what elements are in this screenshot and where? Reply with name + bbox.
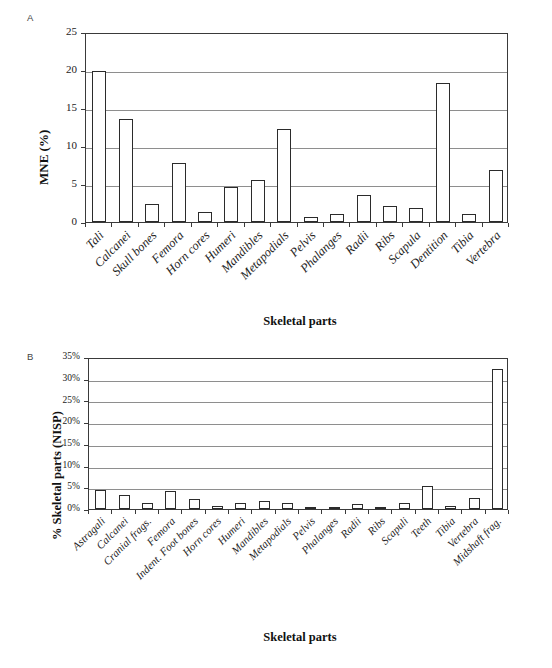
y-axis-tick-label: 15% [54,438,80,448]
x-axis-tick [429,223,430,227]
panel-letter-a: A [27,12,34,23]
x-axis-tick [508,510,509,514]
y-axis-tick-label: 25% [54,395,80,405]
bar [469,498,480,509]
bar [145,204,159,222]
x-axis-tick [508,223,509,227]
bar [304,217,318,222]
y-axis-tick [81,147,85,148]
y-axis-tick-label: 15 [59,101,77,113]
bar [119,495,130,509]
bar [436,83,450,222]
x-axis-tick [391,510,392,514]
x-axis-tick [181,510,182,514]
x-axis-title-a: Skeletal parts [150,314,450,329]
y-axis-tick [81,109,85,110]
x-axis-tick [368,510,369,514]
y-axis-tick-label: 5% [54,481,80,491]
bar [142,503,153,510]
x-axis-tick [455,223,456,227]
bar [212,506,223,509]
x-axis-tick [438,510,439,514]
y-axis-tick-label: 5 [59,177,77,189]
x-axis-tick [111,223,112,227]
x-axis-tick [85,223,86,227]
x-axis-tick [275,510,276,514]
bar [224,187,238,222]
panel-letter-b: B [27,351,34,362]
x-axis-tick [164,223,165,227]
bar [119,119,133,222]
bar [357,195,371,222]
y-axis-tick [84,358,88,359]
x-axis-tick [349,223,350,227]
y-axis-tick-label: 20% [54,416,80,426]
x-axis-tick [297,223,298,227]
bar [305,507,316,509]
bar [172,163,186,222]
bar [198,212,212,222]
y-axis-tick-label: 0 [59,215,77,227]
x-axis-tick [138,223,139,227]
bar [375,507,386,509]
bar-series-a [86,34,507,222]
bar [282,503,293,509]
bar [95,490,106,509]
chart-panel-b: B % Skeletal parts (NISP) 0%5%10%15%20%2… [0,340,552,668]
bar [492,369,503,509]
y-axis-tick [84,467,88,468]
x-axis-tick [402,223,403,227]
x-axis-tick [135,510,136,514]
bar-series-b [89,359,507,509]
y-axis-tick [81,71,85,72]
x-axis-tick [228,510,229,514]
bar [189,499,200,509]
x-axis-tick [323,223,324,227]
plot-area-a [85,33,508,223]
x-axis-tick [376,223,377,227]
x-axis-tick [88,510,89,514]
x-axis-tick [205,510,206,514]
x-axis-tick [158,510,159,514]
x-axis-tick [485,510,486,514]
y-axis-tick-label: 30% [54,373,80,383]
y-axis-tick [84,423,88,424]
x-axis-tick [415,510,416,514]
bar [329,507,340,509]
y-axis-tick-label: 35% [54,351,80,361]
x-axis-tick [321,510,322,514]
bar [399,503,410,509]
chart-panel-a: A MNE (%) 0510152025 TaliCalcaneiSkull b… [0,0,552,340]
y-axis-tick [84,445,88,446]
y-axis-tick-label: 10 [59,139,77,151]
x-axis-tick [191,223,192,227]
bar [92,71,106,222]
bar [422,486,433,509]
x-axis-tick [345,510,346,514]
plot-area-b [88,358,508,510]
bar [330,214,344,222]
bar [352,504,363,509]
x-axis-tick [461,510,462,514]
bar [462,214,476,222]
bar [489,170,503,222]
x-axis-tick [244,223,245,227]
bar [383,206,397,222]
bar [165,491,176,509]
y-axis-tick [84,401,88,402]
y-axis-tick [81,185,85,186]
y-axis-tick-label: 20 [59,63,77,75]
bar [409,208,423,222]
bar [235,503,246,509]
y-axis-tick [84,380,88,381]
y-axis-tick-label: 0% [54,503,80,513]
y-axis-tick-label: 10% [54,460,80,470]
y-axis-tick-label: 25 [59,25,77,37]
y-axis-title-a: MNE (%) [36,130,52,185]
y-axis-tick [81,33,85,34]
x-axis-title-b: Skeletal parts [150,630,450,645]
bar [251,180,265,222]
bar [277,129,291,222]
x-axis-tick [482,223,483,227]
x-axis-tick [270,223,271,227]
